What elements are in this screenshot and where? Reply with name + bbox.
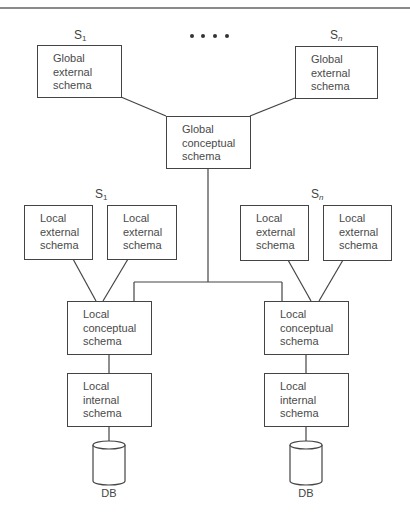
db-label-s1: DB — [89, 487, 129, 499]
ellipsis-dot — [225, 34, 229, 38]
local-conceptual-schema-s1: Localconceptualschema — [67, 301, 152, 355]
site-label-sn-global: Sn — [330, 28, 342, 43]
db-label-sn: DB — [286, 487, 326, 499]
database-icon — [93, 441, 322, 485]
site-label-s1-local: S1 — [95, 187, 107, 202]
local-external-schema-s1-a: Localexternalschema — [24, 205, 93, 260]
local-external-schema-s1-b: Localexternalschema — [107, 205, 177, 260]
local-internal-schema-sn: Localinternalschema — [264, 373, 349, 427]
ellipsis-dot — [201, 34, 205, 38]
site-label-sn-local: Sn — [311, 187, 323, 202]
site-label-s1-global: S1 — [74, 28, 86, 43]
global-external-schema-s1: Globalexternalschema — [37, 45, 122, 98]
local-conceptual-schema-sn: Localconceptualschema — [264, 301, 349, 355]
global-conceptual-schema: Globalconceptualschema — [166, 116, 251, 169]
ellipsis-dot — [190, 34, 194, 38]
global-external-schema-sn: Globalexternalschema — [295, 46, 378, 99]
local-external-schema-sn-a: Localexternalschema — [240, 205, 309, 261]
local-external-schema-sn-b: Localexternalschema — [323, 205, 392, 261]
local-internal-schema-s1: Localinternalschema — [67, 373, 152, 427]
ellipsis-dot — [213, 34, 217, 38]
